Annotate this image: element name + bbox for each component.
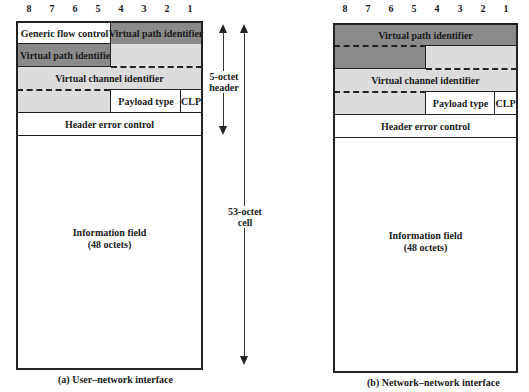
bit-number-2: 2 [162, 3, 172, 14]
bit-number-7: 7 [47, 3, 57, 14]
uni-info-size: (48 octets) [17, 239, 202, 251]
nni-info-label: Information field [334, 230, 517, 242]
bit-number-4: 4 [432, 3, 442, 14]
cell-size-text: cell [224, 217, 266, 228]
bit-number-1: 1 [185, 3, 195, 14]
uni-info-label: Information field [17, 227, 202, 239]
uni-caption: (a) User–network interface [58, 374, 173, 385]
bit-number-4: 4 [116, 3, 126, 14]
uni-information-field: Information field (48 octets) [17, 227, 202, 251]
bit-number-8: 8 [24, 3, 34, 14]
bit-number-6: 6 [70, 3, 80, 14]
header-size-text: header [204, 82, 244, 93]
nni-information-field: Information field (48 octets) [334, 230, 517, 254]
nni-cell-frame [333, 23, 518, 373]
cell-size-label: 53-octet cell [224, 206, 266, 228]
arrow-down-icon [219, 126, 227, 135]
nni-info-size: (48 octets) [334, 242, 517, 254]
bit-number-7: 7 [363, 3, 373, 14]
cell-arrow-line [244, 32, 245, 362]
bit-number-8: 8 [340, 3, 350, 14]
uni-cell-frame [16, 21, 203, 370]
bit-number-2: 2 [478, 3, 488, 14]
header-size-label: 5-octet header [204, 71, 244, 93]
bit-number-5: 5 [93, 3, 103, 14]
arrow-down-icon [240, 356, 248, 365]
bit-number-3: 3 [455, 3, 465, 14]
header-size-text: 5-octet [204, 71, 244, 82]
nni-caption: (b) Network–network interface [367, 377, 500, 388]
bit-number-1: 1 [501, 3, 511, 14]
bit-number-5: 5 [409, 3, 419, 14]
bit-number-3: 3 [139, 3, 149, 14]
bit-number-6: 6 [386, 3, 396, 14]
cell-size-text: 53-octet [224, 206, 266, 217]
